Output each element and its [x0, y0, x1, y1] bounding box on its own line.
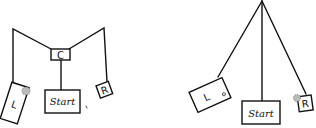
right-box-r: R — [96, 81, 113, 98]
start-box2: Start — [242, 101, 280, 124]
burst-marker-icon — [22, 87, 30, 95]
start-box-label: Start — [50, 96, 77, 107]
left-arm-line — [13, 29, 51, 83]
start-box: Start — [45, 90, 80, 113]
right-string-line — [262, 1, 306, 94]
right-figure: L Start R — [189, 1, 313, 124]
left-box-l2: L — [189, 78, 231, 113]
tick-mark — [86, 106, 87, 108]
diagram-canvas: C L Start R L Start — [0, 0, 316, 128]
right-arm-line — [69, 28, 107, 82]
start-box2-label: Start — [248, 108, 275, 119]
burst-marker2-icon — [294, 95, 301, 102]
left-figure: C L Start R — [0, 28, 113, 124]
center-box-label: C — [57, 50, 64, 61]
center-box-c: C — [51, 49, 70, 61]
left-string-line — [218, 1, 262, 77]
